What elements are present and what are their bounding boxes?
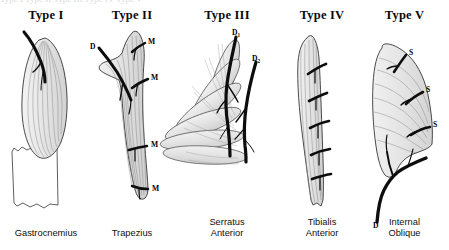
panel-type-5: Type V [360,0,449,250]
panel-type-3: Type III [172,0,282,250]
type-2-pedicle-label-m-3: M [151,141,158,149]
panel-type-4: Type IV [282,0,362,250]
type-2-muscle-drawing [86,0,178,250]
type-1-muscle-drawing [0,0,92,250]
type-2-pedicle-label-m-1: M [148,38,155,46]
type-5-pedicle-label-s-3: S [433,121,437,129]
type-3-pedicle-label-d1: D1 [232,29,240,37]
type-3-pedicle-label-d2: D2 [252,55,260,63]
type-2-pedicle-label-d: D [90,43,95,51]
type-3-muscle-drawing [172,0,282,250]
type-2-pedicle-label-m-2: M [151,74,158,82]
type-5-pedicle-label-s-1: S [409,49,413,57]
type-3-muscle-label: Serratus Anterior [172,217,282,238]
type-5-pedicle-label-s-2: S [426,86,430,94]
type-2-muscle-label: Trapezius [86,228,178,239]
muscle-vascular-classification-figure: Type I Type II Type III Type IV Type V T… [0,0,449,250]
type-4-muscle-label: Tibialis Anterior [282,217,362,238]
panel-type-2: Type II [86,0,178,250]
type-2-pedicle-label-m-4: M [152,185,159,193]
type-1-muscle-label: Gastrocnemius [0,228,92,239]
type-4-muscle-drawing [282,0,362,250]
panel-type-1: Type I [0,0,92,250]
type-5-muscle-label: Internal Oblique [360,217,449,238]
